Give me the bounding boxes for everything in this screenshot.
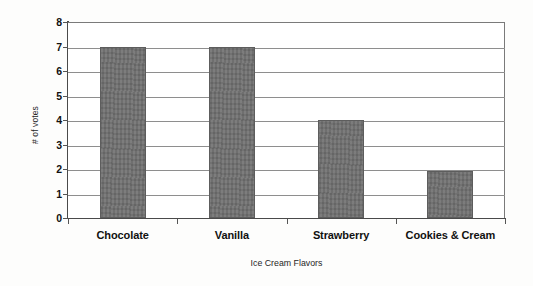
y-axis-tick-mark bbox=[63, 47, 68, 48]
y-axis-tick-label: 8 bbox=[40, 17, 62, 28]
bar bbox=[209, 47, 255, 219]
x-axis-tick-mark bbox=[396, 219, 397, 224]
y-axis-tick-mark bbox=[63, 218, 68, 219]
x-axis-category-label: Chocolate bbox=[68, 229, 177, 241]
y-axis-tick-mark bbox=[63, 169, 68, 170]
x-axis-tick-mark bbox=[287, 219, 288, 224]
y-axis-title-text: # of votes bbox=[30, 106, 40, 144]
y-axis-tick-label: 4 bbox=[40, 115, 62, 126]
bar bbox=[100, 47, 146, 219]
x-axis-tick-mark bbox=[68, 219, 69, 224]
y-axis-tick-label: 7 bbox=[40, 41, 62, 52]
x-axis-title: Ice Cream Flavors bbox=[68, 258, 505, 268]
y-axis-tick-label: 3 bbox=[40, 139, 62, 150]
y-axis-tick-mark bbox=[63, 96, 68, 97]
x-axis-category-label: Strawberry bbox=[287, 229, 396, 241]
y-axis-tick-label: 2 bbox=[40, 164, 62, 175]
bar bbox=[427, 171, 473, 218]
y-axis-tick-mark bbox=[63, 22, 68, 23]
y-axis-tick-label: 0 bbox=[40, 213, 62, 224]
x-axis-category-label: Cookies & Cream bbox=[396, 229, 505, 241]
y-axis-tick-label-group: 876543210 bbox=[40, 22, 62, 218]
bar bbox=[318, 120, 364, 218]
bar-chart-figure: # of votes 876543210 ChocolateVanillaStr… bbox=[0, 0, 533, 286]
y-axis-tick-mark bbox=[63, 145, 68, 146]
y-axis-tick-label: 5 bbox=[40, 90, 62, 101]
x-axis-tick-mark bbox=[177, 219, 178, 224]
x-axis-tick-mark bbox=[505, 219, 506, 224]
y-axis-tick-mark bbox=[63, 71, 68, 72]
x-axis-category-label: Vanilla bbox=[177, 229, 286, 241]
y-axis-tick-label: 1 bbox=[40, 188, 62, 199]
y-axis-tick-mark bbox=[63, 194, 68, 195]
y-axis-tick-label: 6 bbox=[40, 66, 62, 77]
y-axis-tick-mark bbox=[63, 120, 68, 121]
plot-area bbox=[68, 22, 505, 218]
